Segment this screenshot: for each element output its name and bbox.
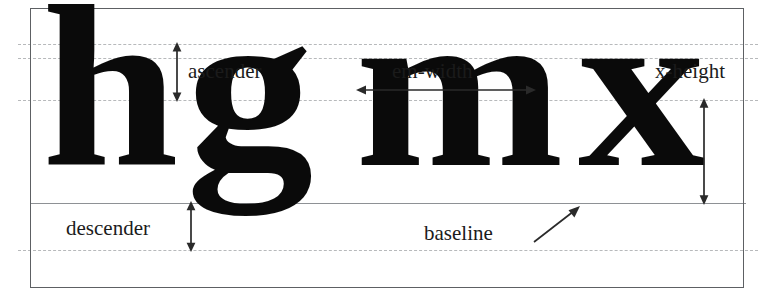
- ascender-measure-arrow: [168, 40, 186, 106]
- letter-x: x: [578, 0, 706, 203]
- x-height-measure-arrow: [695, 96, 713, 208]
- em-width-label: em-width: [392, 61, 472, 82]
- letter-m: m: [355, 0, 564, 203]
- typography-diagram: h g m x ascender em-width x-height desce…: [0, 0, 765, 304]
- descender-measure-arrow: [182, 199, 200, 255]
- baseline-label: baseline: [424, 223, 493, 244]
- ascender-label: ascender: [188, 61, 261, 82]
- em-width-measure-arrow: [354, 82, 538, 98]
- letter-g: g: [186, 0, 314, 203]
- x-height-label: x-height: [655, 61, 725, 82]
- descender-label: descender: [66, 218, 150, 239]
- letter-h: h: [42, 0, 179, 203]
- baseline-pointer-arrow: [528, 202, 586, 246]
